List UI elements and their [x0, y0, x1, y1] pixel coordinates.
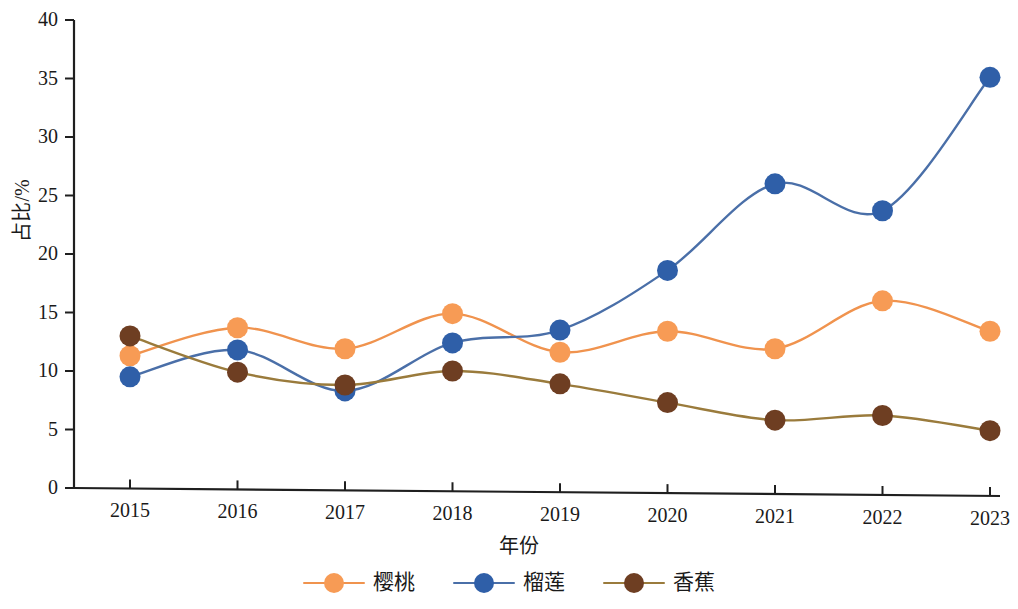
legend-dot-icon	[324, 573, 344, 593]
data-point-榴莲-2015	[120, 366, 141, 387]
data-point-榴莲-2019	[550, 320, 571, 341]
y-tick-label: 40	[14, 9, 58, 29]
y-tick-label: 0	[14, 477, 58, 497]
x-axis-title: 年份	[459, 530, 579, 559]
y-tick-label: 10	[14, 360, 58, 380]
data-point-樱桃-2016	[227, 317, 248, 338]
legend-label: 樱桃	[373, 572, 415, 593]
y-tick-label: 15	[14, 302, 58, 322]
data-point-香蕉-2016	[227, 362, 248, 383]
x-axis-line	[74, 488, 1000, 496]
data-point-榴莲-2023	[980, 67, 1001, 88]
data-point-香蕉-2023	[980, 420, 1001, 441]
data-point-樱桃-2019	[550, 342, 571, 363]
legend-item-樱桃[interactable]: 樱桃	[303, 572, 415, 593]
x-tick-label: 2023	[945, 508, 1018, 528]
legend-dot-icon	[474, 573, 494, 593]
data-point-香蕉-2018	[442, 361, 463, 382]
data-point-樱桃-2021	[765, 338, 786, 359]
data-point-香蕉-2015	[120, 325, 141, 346]
x-tick-label: 2016	[193, 501, 283, 521]
data-point-榴莲-2020	[657, 260, 678, 281]
data-point-香蕉-2021	[765, 410, 786, 431]
data-point-香蕉-2019	[550, 373, 571, 394]
legend-item-榴莲[interactable]: 榴莲	[453, 572, 565, 593]
data-point-榴莲-2022	[872, 200, 893, 221]
data-point-樱桃-2015	[120, 345, 141, 366]
legend-item-香蕉[interactable]: 香蕉	[603, 572, 715, 593]
legend-marker-icon	[453, 573, 515, 593]
legend-marker-icon	[603, 573, 665, 593]
x-tick-label: 2020	[623, 505, 713, 525]
x-tick-label: 2018	[408, 503, 498, 523]
data-point-香蕉-2022	[872, 405, 893, 426]
x-tick-label: 2015	[85, 500, 175, 520]
y-tick-label: 35	[14, 68, 58, 88]
x-tick-label: 2021	[730, 506, 820, 526]
legend-dot-icon	[624, 573, 644, 593]
data-point-樱桃-2018	[442, 303, 463, 324]
line-chart: 占比/% 年份 0510152025303540 201520162017201…	[0, 0, 1018, 609]
data-point-榴莲-2018	[442, 332, 463, 353]
y-tick-label: 5	[14, 419, 58, 439]
data-point-榴莲-2021	[765, 173, 786, 194]
data-point-香蕉-2020	[657, 392, 678, 413]
legend-label: 榴莲	[523, 572, 565, 593]
x-tick-label: 2022	[838, 507, 928, 527]
y-tick-label: 30	[14, 126, 58, 146]
legend-label: 香蕉	[673, 572, 715, 593]
data-point-榴莲-2016	[227, 339, 248, 360]
chart-legend: 樱桃榴莲香蕉	[0, 572, 1018, 593]
legend-marker-icon	[303, 573, 365, 593]
data-point-樱桃-2023	[980, 321, 1001, 342]
data-point-樱桃-2022	[872, 290, 893, 311]
y-tick-label: 25	[14, 185, 58, 205]
data-point-樱桃-2017	[335, 338, 356, 359]
y-tick-label: 20	[14, 243, 58, 263]
data-point-香蕉-2017	[335, 375, 356, 396]
x-tick-label: 2017	[300, 502, 390, 522]
data-point-樱桃-2020	[657, 321, 678, 342]
x-tick-label: 2019	[515, 504, 605, 524]
